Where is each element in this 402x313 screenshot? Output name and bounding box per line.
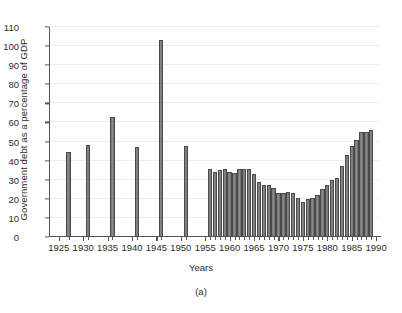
bar [276,193,280,237]
minor-tick-mark [342,237,343,240]
bar [364,132,368,237]
bar [232,173,236,237]
x-axis-tick-mark [156,237,157,241]
bar [208,169,212,237]
bar [213,172,217,237]
minor-tick-mark [371,237,372,240]
minor-tick-mark [313,237,314,240]
bar [330,180,334,237]
x-axis-tick-mark [376,237,377,241]
bar [257,182,261,237]
bar [350,146,354,237]
y-axis-tick-mark [45,141,49,142]
bar [237,169,241,237]
y-axis-tick-label: 100 [0,41,19,52]
minor-tick-mark [235,237,236,240]
bar [320,189,324,237]
minor-tick-mark [161,237,162,240]
bar [86,145,90,237]
x-axis-title: Years [0,262,402,273]
y-axis-tick-mark [45,236,49,237]
minor-tick-mark [274,237,275,240]
y-axis-tick-label: 70 [0,98,19,109]
minor-tick-mark [225,237,226,240]
bar [242,169,246,237]
y-axis-tick-mark [45,26,49,27]
y-axis-tick-mark [45,103,49,104]
minor-tick-mark [215,237,216,240]
y-axis-title: Government debt as a percentage of GDP [18,15,29,245]
chart-figure: Government debt as a percentage of GDP 0… [0,0,402,313]
minor-tick-mark [352,237,353,240]
minor-tick-mark [239,237,240,240]
minor-tick-mark [298,237,299,240]
minor-tick-mark [244,237,245,240]
bar-series [49,27,381,237]
y-axis-tick-mark [45,65,49,66]
bar [159,40,163,237]
bar [340,166,344,237]
x-axis-tick-mark [59,237,60,241]
x-axis-tick-mark [205,237,206,241]
minor-tick-mark [293,237,294,240]
y-axis-tick-mark [45,217,49,218]
minor-tick-mark [366,237,367,240]
minor-tick-mark [186,237,187,240]
minor-tick-mark [318,237,319,240]
y-axis-tick-label: 90 [0,60,19,71]
y-axis-tick-label: 40 [0,155,19,166]
bar [291,193,295,237]
minor-tick-mark [303,237,304,240]
x-axis-tick-mark [83,237,84,241]
minor-tick-mark [88,237,89,240]
bar [310,198,314,237]
minor-tick-mark [322,237,323,240]
bar [66,152,70,237]
minor-tick-mark [69,237,70,240]
bar [223,169,227,237]
bar [252,174,256,237]
x-axis-tick-mark [108,237,109,241]
bar [247,169,251,237]
y-axis-tick-mark [45,84,49,85]
bar [135,147,139,237]
y-axis-tick-mark [45,198,49,199]
x-axis-tick-mark [181,237,182,241]
minor-tick-mark [357,237,358,240]
minor-tick-mark [308,237,309,240]
y-axis-tick-label: 30 [0,174,19,185]
minor-tick-mark [269,237,270,240]
bar [315,195,319,237]
bar [281,193,285,237]
y-axis-tick-label: 60 [0,117,19,128]
y-axis-tick-label: 110 [0,22,19,33]
y-axis-tick-label: 10 [0,212,19,223]
bar [325,185,329,238]
y-axis-tick-label: 0 [0,232,19,243]
x-axis-tick-label: 1990 [356,242,396,253]
plot-area [49,27,381,237]
bar [184,146,188,237]
bar [335,178,339,237]
bar [262,185,266,238]
minor-tick-mark [278,237,279,240]
minor-tick-mark [230,237,231,240]
minor-tick-mark [332,237,333,240]
bar [354,140,358,237]
minor-tick-mark [259,237,260,240]
minor-tick-mark [283,237,284,240]
bar [296,198,300,237]
minor-tick-mark [264,237,265,240]
bar [369,130,373,237]
y-axis-tick-mark [45,160,49,161]
y-axis-tick-label: 20 [0,193,19,204]
y-axis-tick-mark [45,179,49,180]
x-axis-tick-mark [132,237,133,241]
bar [110,117,114,237]
bar [227,172,231,237]
minor-tick-mark [361,237,362,240]
y-axis-tick-mark [45,45,49,46]
bar [267,185,271,237]
minor-tick-mark [137,237,138,240]
minor-tick-mark [210,237,211,240]
